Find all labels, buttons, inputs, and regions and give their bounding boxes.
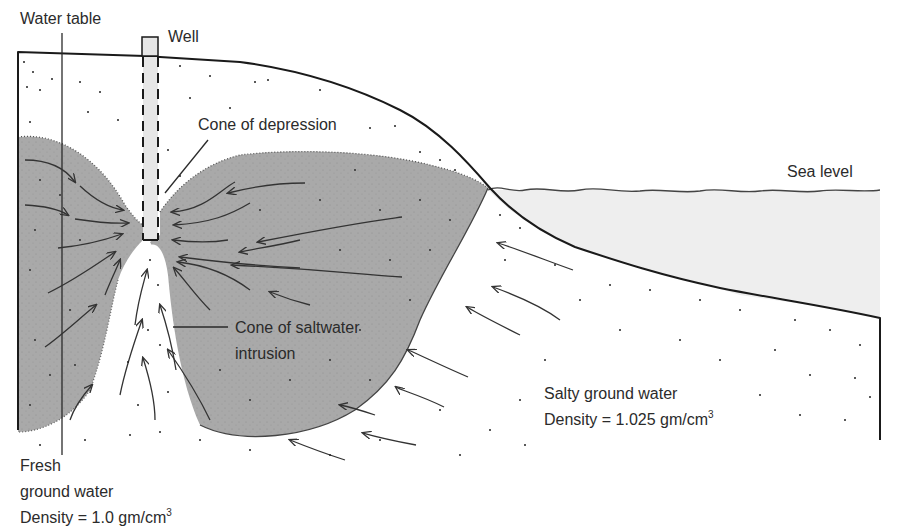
saltwater-intrusion-diagram: Water table Well Cone of depression Sea …	[0, 0, 898, 531]
cone-saltwater-label-line1: Cone of saltwater	[235, 319, 360, 336]
sea-level-label: Sea level	[787, 163, 853, 180]
fresh-density-label: Density = 1.0 gm/cm3	[20, 507, 172, 526]
fresh-label: Fresh	[20, 457, 61, 474]
ground-water-label: ground water	[20, 483, 114, 500]
well-cap	[142, 37, 158, 56]
salty-density-label: Density = 1.025 gm/cm3	[544, 409, 714, 428]
cone-saltwater-label-line2: intrusion	[235, 345, 295, 362]
fresh-water-lens-right	[150, 152, 488, 437]
well-casing	[143, 57, 158, 240]
sea-region	[488, 190, 880, 318]
cone-of-depression-label: Cone of depression	[198, 116, 337, 133]
salty-ground-water-label: Salty ground water	[544, 385, 678, 402]
well-label: Well	[168, 28, 199, 45]
water-table-label: Water table	[20, 10, 101, 27]
